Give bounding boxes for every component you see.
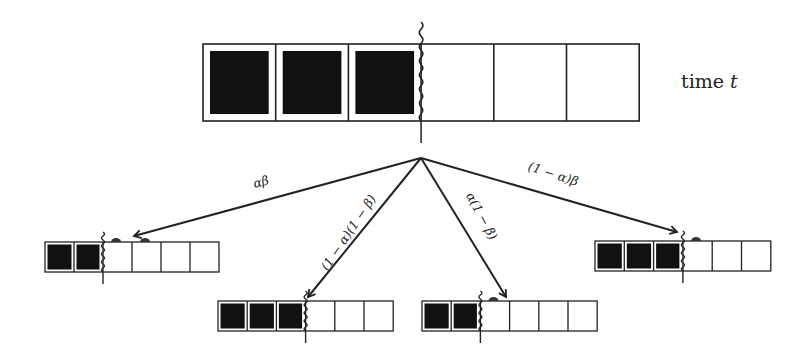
packet-block: [425, 304, 449, 329]
queue-state-1ma1mb: [218, 291, 393, 343]
time-label-text: time: [681, 70, 724, 92]
packet-block: [279, 304, 302, 329]
time-label-var: t: [730, 70, 738, 92]
packet-block: [77, 245, 100, 270]
arrival-bump-icon: [111, 238, 121, 242]
packet-block: [454, 304, 477, 329]
transition-arrow-1ma1mb: [308, 158, 421, 297]
arrival-bump-icon: [691, 237, 701, 241]
time-t-label: time t: [681, 70, 738, 92]
arrival-bump-icon: [140, 238, 150, 242]
packet-block: [598, 244, 622, 269]
probability-label-ab: αβ: [251, 172, 270, 190]
packet-block: [210, 51, 269, 114]
transition-arrow-ab: [134, 158, 421, 236]
probability-label-1mab: (1 − α)β: [526, 159, 580, 189]
queue-state-a1mb: [422, 291, 597, 343]
packet-block: [656, 244, 679, 269]
arrival-bump-icon: [489, 297, 499, 301]
packet-block: [627, 244, 651, 269]
next-queue-states: [45, 231, 771, 343]
queue-transition-diagram: αβ(1 − α)(1 − β)α(1 − β)(1 − α)β: [0, 0, 809, 357]
root-queue: [203, 22, 639, 143]
packet-block: [355, 51, 414, 114]
queue-state-ab: [45, 232, 219, 284]
packet-block: [221, 304, 245, 329]
packet-block: [283, 51, 342, 114]
transition-arrows: αβ(1 − α)(1 − β)α(1 − β)(1 − α)β: [134, 158, 677, 297]
packet-block: [48, 245, 72, 270]
queue-state-1mab: [595, 231, 771, 283]
packet-block: [250, 304, 274, 329]
probability-label-1ma1mb: (1 − α)(1 − β): [317, 192, 379, 273]
root-queue-state: [203, 22, 639, 143]
